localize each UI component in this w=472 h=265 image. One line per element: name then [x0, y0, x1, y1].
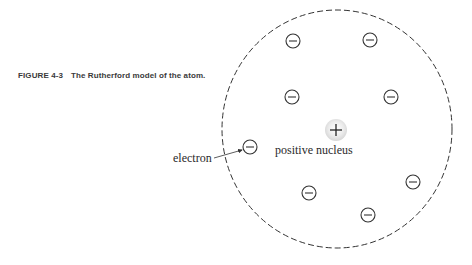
nucleus	[325, 119, 347, 141]
nucleus-label: positive nucleus	[275, 143, 353, 157]
electron	[406, 175, 420, 189]
electron	[302, 186, 316, 200]
electron	[285, 90, 299, 104]
electron-label: electron	[173, 151, 212, 165]
electron	[361, 208, 375, 222]
electron	[363, 33, 377, 47]
electron	[243, 140, 257, 154]
rutherford-atom-diagram: positive nucleus electron	[0, 0, 472, 265]
electron	[286, 34, 300, 48]
electron	[384, 90, 398, 104]
electron-pointer-arrow	[214, 150, 242, 158]
